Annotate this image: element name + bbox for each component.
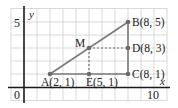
label-c: C(8, 1): [132, 68, 165, 81]
label-a: A(2, 1): [41, 76, 74, 89]
x-tick-10: 10: [147, 88, 159, 102]
point-m: [87, 46, 92, 51]
y-tick-5: 5: [14, 16, 20, 30]
label-d: D(8, 3): [132, 42, 165, 55]
label-m: M: [75, 37, 85, 49]
point-c: [126, 72, 131, 77]
coordinate-diagram: y 5 0 10 x A(2, 1) B(8, 5) C(8, 1) D(8, …: [0, 0, 178, 108]
label-b: B(8, 5): [132, 16, 165, 29]
label-e: E(5, 1): [86, 76, 118, 89]
origin-label: 0: [14, 88, 20, 102]
diagram-canvas: y 5 0 10 x A(2, 1) B(8, 5) C(8, 1) D(8, …: [0, 0, 178, 108]
point-b: [126, 20, 131, 25]
y-axis-label: y: [28, 8, 34, 20]
point-d: [126, 46, 131, 51]
